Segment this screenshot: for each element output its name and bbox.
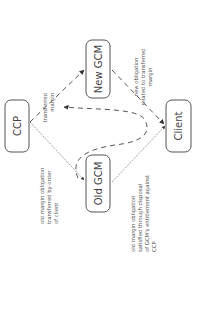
svg-text:CCP: CCP	[151, 241, 157, 252]
svg-text:margin: margin	[147, 68, 154, 87]
svg-text:satisfied through disposal: satisfied through disposal	[137, 184, 144, 252]
label-transferred-margin: transferred margin	[42, 93, 56, 123]
diagram-canvas: CCP New GCM Old GCM Client transferred m…	[0, 0, 199, 310]
svg-text:of client: of client	[53, 203, 59, 224]
svg-text:transferred: transferred	[42, 93, 48, 123]
node-new-gcm-label: New GCM	[93, 45, 104, 93]
node-ccp-label: CCP	[12, 116, 23, 136]
edge-old-gcm-to-client	[112, 126, 165, 182]
node-client-label: Client	[173, 111, 184, 140]
svg-text:margin: margin	[49, 93, 56, 112]
label-new-obligation: new obligation related to transferred ma…	[133, 49, 154, 106]
label-old-margin-satisfied: old margin obligation satisfied through …	[130, 175, 157, 252]
svg-text:related to transferred: related to transferred	[140, 49, 146, 106]
svg-text:old margin obligation: old margin obligation	[39, 168, 46, 224]
node-old-gcm[interactable]: Old GCM	[86, 155, 110, 212]
svg-text:of GCM's entitlement against: of GCM's entitlement against	[144, 175, 151, 252]
node-client[interactable]: Client	[166, 100, 191, 152]
node-new-gcm[interactable]: New GCM	[86, 40, 110, 98]
svg-text:transferred by order: transferred by order	[46, 170, 53, 224]
node-old-gcm-label: Old GCM	[93, 162, 104, 206]
label-old-margin-transferred: old margin obligation transferred by ord…	[39, 168, 59, 224]
edge-ccp-to-new-gcm	[30, 70, 84, 122]
node-ccp[interactable]: CCP	[5, 100, 29, 152]
svg-text:new obligation: new obligation	[133, 58, 140, 97]
svg-text:old margin obligation: old margin obligation	[130, 196, 137, 252]
